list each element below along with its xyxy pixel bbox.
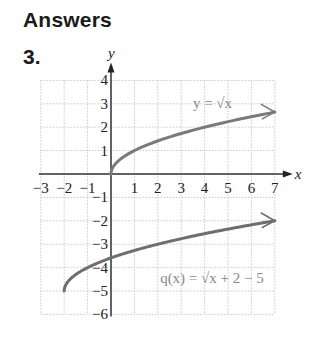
y-tick-label: 4	[101, 72, 109, 88]
x-tick-label: 6	[248, 180, 256, 196]
x-tick-label: 2	[154, 180, 162, 196]
curve-arrow-icon	[261, 104, 275, 119]
y-axis-label: y	[106, 45, 115, 61]
y-tick-label: 2	[101, 119, 109, 135]
x-axis-arrow-icon	[283, 171, 293, 178]
y-axis-arrow-icon	[108, 62, 115, 72]
x-tick-label: 1	[131, 180, 139, 196]
graph: xy−3−2−112345674321−1−2−3−4−5−6y = √xq(x…	[0, 0, 311, 338]
curve-label-q-x: q(x) = √x + 2 − 5	[160, 270, 264, 287]
x-tick-label: 3	[177, 180, 185, 196]
curve-sqrt-x	[111, 112, 275, 174]
x-tick-label: −2	[56, 180, 72, 196]
x-tick-label: −3	[33, 180, 49, 196]
x-axis-label: x	[294, 166, 302, 182]
y-tick-label: −1	[92, 189, 108, 205]
y-tick-label: −5	[92, 283, 108, 299]
y-tick-label: −3	[92, 236, 108, 252]
curve-label-sqrt-x: y = √x	[193, 95, 233, 111]
y-tick-label: 3	[101, 96, 109, 112]
y-tick-label: 1	[101, 143, 109, 159]
x-tick-label: 5	[224, 180, 232, 196]
y-tick-label: −2	[92, 213, 108, 229]
y-tick-label: −6	[92, 306, 108, 322]
x-tick-label: 4	[201, 180, 209, 196]
x-tick-label: 7	[271, 180, 279, 196]
